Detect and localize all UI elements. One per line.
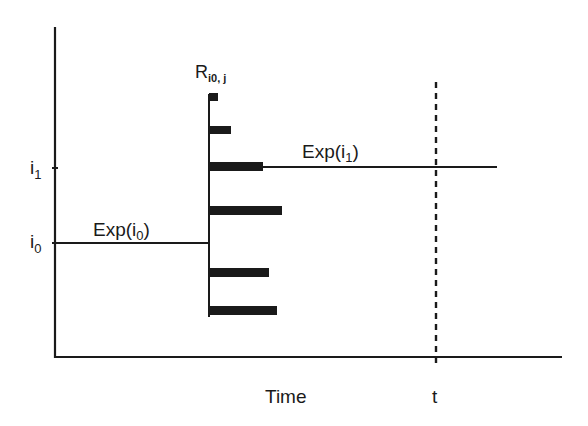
label-r-i0-j: Ri0, j <box>195 62 226 84</box>
diagram-canvas: i1 i0 Exp(i0) Exp(i1) Ri0, j Time t <box>0 0 588 426</box>
label-exp-i1: Exp(i1) <box>302 141 359 165</box>
time-marker-label-t: t <box>432 386 438 407</box>
bar-1 <box>209 93 218 101</box>
bar-2 <box>209 126 231 134</box>
bar-5 <box>209 268 269 277</box>
label-i1: i1 <box>30 157 41 182</box>
label-exp-i0: Exp(i0) <box>93 219 150 243</box>
bar-3 <box>209 162 263 171</box>
distribution-bars <box>209 93 282 315</box>
bar-6 <box>209 306 277 315</box>
label-i0: i0 <box>30 231 41 256</box>
bar-4 <box>209 206 282 215</box>
x-axis-label-time: Time <box>265 386 307 407</box>
